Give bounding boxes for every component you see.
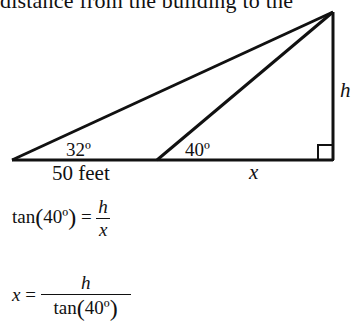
tan-arg: 40º <box>43 206 68 227</box>
tan-arg: 40º <box>85 297 110 318</box>
right-angle-marker <box>318 145 333 160</box>
angle-40-label: 40º <box>185 140 210 159</box>
equation-tan40-eq-h-over-x: tan(40º) = h x <box>12 196 110 241</box>
numerator: h <box>41 272 131 294</box>
fraction-h-over-tan40: h tan(40º) <box>41 272 131 322</box>
denominator: tan(40º) <box>41 294 131 322</box>
equation-x-eq-h-over-tan40: x = h tan(40º) <box>12 272 131 322</box>
numerator: h <box>96 196 110 218</box>
long-hypotenuse <box>12 12 333 160</box>
base-x-label: x <box>249 162 258 183</box>
base-50-feet-label: 50 feet <box>52 163 110 184</box>
x-var: x <box>12 284 20 305</box>
equals-sign: = <box>81 206 92 227</box>
denominator: x <box>96 218 110 241</box>
short-hypotenuse <box>157 12 333 160</box>
fraction-h-over-x: h x <box>96 196 110 241</box>
equals-sign: = <box>25 284 36 305</box>
height-h-label: h <box>340 80 351 101</box>
tan-fn: tan <box>12 206 35 227</box>
tan-fn: tan <box>54 297 77 318</box>
angle-32-label: 32º <box>66 140 91 159</box>
